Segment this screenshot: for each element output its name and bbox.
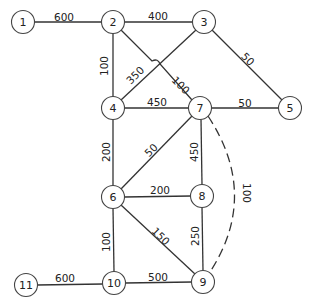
node-8: 8 — [191, 185, 214, 208]
node-3: 3 — [193, 11, 216, 34]
edge-label-3-5: 50 — [239, 50, 257, 68]
node-label-8: 8 — [199, 190, 206, 203]
edge-label-6-8: 200 — [150, 184, 170, 196]
node-1: 1 — [12, 11, 35, 34]
edge-7-8 — [201, 119, 202, 185]
node-11: 11 — [15, 274, 38, 297]
edge-label-7-8: 450 — [188, 142, 200, 162]
edge-label-8-9: 250 — [189, 226, 201, 246]
edge-labels-layer: 600 400 100 100 350 50 450 50 200 50 450… — [54, 10, 257, 284]
edge-label-6-10: 100 — [100, 232, 112, 252]
node-label-2: 2 — [110, 16, 117, 29]
edge-label-3-4: 350 — [124, 64, 147, 87]
edge-label-2-7: 100 — [170, 74, 193, 97]
edge-label-7-5: 50 — [238, 97, 251, 109]
network-graph: 600 400 100 100 350 50 450 50 200 50 450… — [0, 0, 310, 305]
node-2: 2 — [102, 11, 125, 34]
edge-label-2-4: 100 — [98, 56, 110, 76]
node-label-11: 11 — [19, 279, 33, 292]
edge-label-10-9: 500 — [148, 271, 168, 283]
node-label-7: 7 — [197, 102, 204, 115]
edge-label-7-6: 50 — [142, 141, 160, 159]
edge-label-6-9: 150 — [150, 225, 173, 248]
node-label-9: 9 — [200, 276, 207, 289]
node-6: 6 — [102, 186, 125, 209]
edge-label-7-9: 100 — [241, 183, 253, 203]
edge-label-4-7: 450 — [147, 96, 167, 108]
node-label-3: 3 — [201, 16, 208, 29]
edge-6-10 — [113, 208, 114, 272]
edge-8-9 — [202, 207, 203, 271]
node-label-6: 6 — [110, 191, 117, 204]
node-label-10: 10 — [107, 277, 121, 290]
edge-label-2-3: 400 — [148, 10, 168, 22]
edge-label-11-10: 600 — [55, 272, 75, 284]
edge-label-4-6: 200 — [100, 142, 112, 162]
node-label-4: 4 — [110, 102, 117, 115]
node-9: 9 — [192, 271, 215, 294]
node-10: 10 — [103, 272, 126, 295]
nodes-layer: 1 2 3 4 5 6 7 8 — [12, 11, 302, 297]
node-label-1: 1 — [20, 16, 27, 29]
node-4: 4 — [102, 97, 125, 120]
edge-label-1-2: 600 — [54, 11, 74, 23]
edge-6-8 — [124, 196, 191, 197]
node-7: 7 — [189, 97, 212, 120]
node-5: 5 — [279, 97, 302, 120]
edge-11-10 — [37, 284, 103, 285]
node-label-5: 5 — [287, 102, 294, 115]
